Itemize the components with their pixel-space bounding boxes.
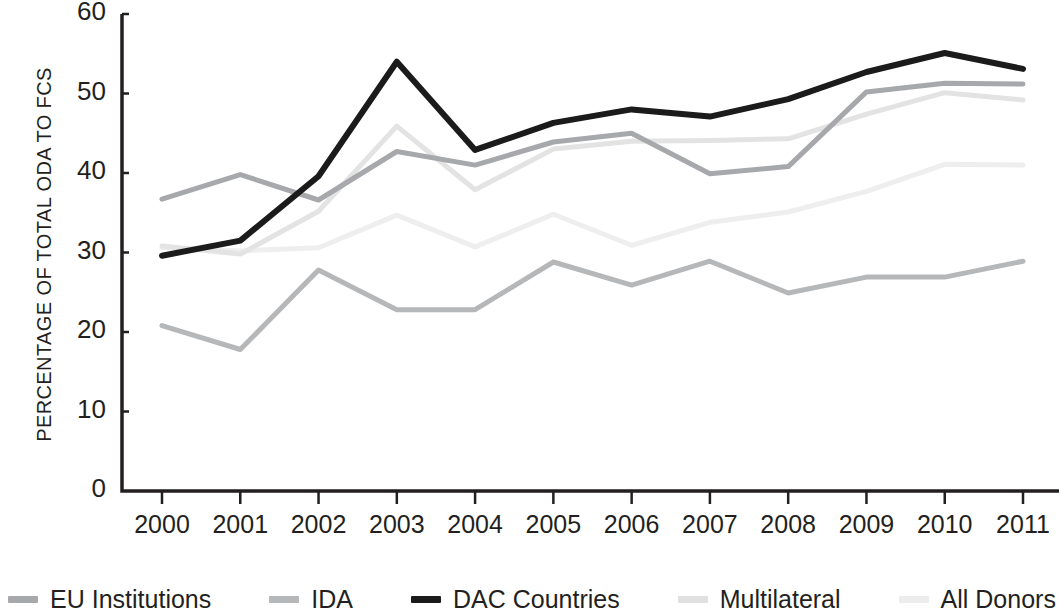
legend-label: DAC Countries	[453, 585, 620, 614]
plot-area	[0, 0, 1064, 614]
legend-label: Multilateral	[720, 585, 841, 614]
legend-label: IDA	[311, 585, 353, 614]
chart-legend: EU InstitutionsIDADAC CountriesMultilate…	[0, 584, 1064, 614]
line-chart-figure: PERCENTAGE OF TOTAL ODA TO FCS 010203040…	[0, 0, 1064, 614]
legend-swatch-icon	[269, 596, 299, 603]
legend-item-multilateral[interactable]: Multilateral	[678, 585, 841, 614]
legend-swatch-icon	[678, 596, 708, 603]
legend-swatch-icon	[8, 596, 38, 603]
legend-label: EU Institutions	[50, 585, 211, 614]
legend-label: All Donors	[941, 585, 1056, 614]
legend-item-ida[interactable]: IDA	[269, 585, 353, 614]
legend-item-dac-countries[interactable]: DAC Countries	[411, 585, 620, 614]
legend-item-all-donors[interactable]: All Donors	[899, 585, 1056, 614]
series-line-ida	[162, 261, 1023, 349]
series-line-all-donors	[162, 164, 1023, 251]
legend-item-eu-institutions[interactable]: EU Institutions	[8, 585, 211, 614]
legend-swatch-icon	[411, 596, 441, 603]
legend-swatch-icon	[899, 596, 929, 603]
